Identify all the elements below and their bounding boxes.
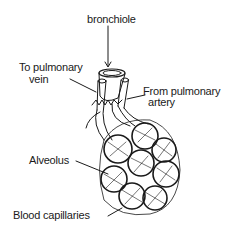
capillary-band [92,100,122,105]
bronchiole-label: bronchiole [87,14,136,25]
to-pulmonary-vein-label-line1: To pulmonary [19,62,83,73]
blood-capillaries-label: Blood capillaries [13,210,90,221]
from-pulmonary-artery-label-line2: artery [148,97,175,108]
pulmonary-artery-tube [118,78,129,108]
bronchiole-tube [99,69,125,101]
alveoli-illustration [0,0,239,227]
alveolus-label: Alveolus [29,155,69,166]
capillary-mesh [104,128,175,206]
vein-pointer [70,79,96,92]
to-pulmonary-vein-label-line2: vein [29,74,48,85]
alveolus-cluster [101,123,179,210]
